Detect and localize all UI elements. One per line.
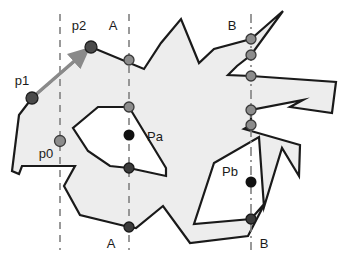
label-p2: p2 xyxy=(72,18,86,33)
intersection-dot-b6 xyxy=(246,214,256,224)
intersection-dot-b3 xyxy=(246,71,256,81)
point-pa-dot xyxy=(124,130,135,141)
intersection-dot-a3 xyxy=(124,163,134,173)
figure-canvas: p2 p1 p0 Pa Pb A A B B xyxy=(0,0,344,262)
label-b-bottom: B xyxy=(260,236,269,251)
point-p1-dot xyxy=(26,92,38,104)
point-p2-dot xyxy=(85,41,97,53)
polygon-scanline-figure: p2 p1 p0 Pa Pb A A B B xyxy=(0,0,344,262)
label-a-bottom: A xyxy=(107,236,116,251)
label-b-top: B xyxy=(228,18,237,33)
intersection-dot-a1 xyxy=(124,55,134,65)
label-p0: p0 xyxy=(39,146,53,161)
point-p0-dot xyxy=(55,136,66,147)
intersection-dot-b4 xyxy=(246,105,256,115)
label-a-top: A xyxy=(109,18,118,33)
intersection-dot-b2 xyxy=(246,50,256,60)
label-p1: p1 xyxy=(15,73,29,88)
intersection-dot-a4 xyxy=(124,222,134,232)
intersection-dot-b5 xyxy=(246,120,256,130)
intersections-B-group xyxy=(246,34,256,224)
intersection-dot-b1 xyxy=(246,34,256,44)
label-pb: Pb xyxy=(222,164,238,179)
point-pb-dot xyxy=(246,177,257,188)
intersection-dot-a2 xyxy=(124,102,134,112)
label-pa: Pa xyxy=(147,129,164,144)
